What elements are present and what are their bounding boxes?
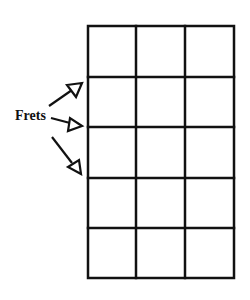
arrows (49, 83, 82, 174)
arrow-icon (51, 118, 82, 131)
fret-diagram (0, 0, 250, 300)
grid-border (88, 26, 234, 278)
arrow-icon (52, 137, 81, 174)
arrow-icon (49, 83, 82, 106)
fretboard-grid (88, 26, 234, 278)
frets-label: Frets (15, 108, 46, 124)
